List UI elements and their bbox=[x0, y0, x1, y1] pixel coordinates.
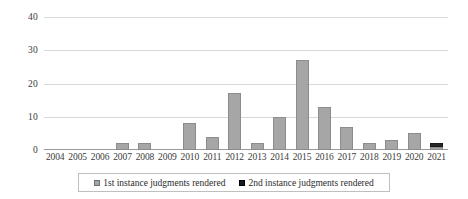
x-tick-label-2015: 2015 bbox=[291, 152, 313, 168]
y-tick-label-40: 40 bbox=[28, 12, 38, 22]
bar-group-2005 bbox=[66, 17, 88, 150]
bar-stack-2008[interactable] bbox=[138, 143, 151, 150]
bar-segment-first-instance-2021[interactable] bbox=[430, 147, 443, 150]
bar-stack-2012[interactable] bbox=[228, 93, 241, 150]
bar-group-2019 bbox=[381, 17, 403, 150]
bar-group-2015 bbox=[291, 17, 313, 150]
y-tick-label-0: 0 bbox=[33, 145, 38, 155]
x-tick-label-2021: 2021 bbox=[425, 152, 447, 168]
legend-swatch-icon-second-instance bbox=[239, 180, 245, 186]
chart-legend: 1st instance judgments rendered 2nd inst… bbox=[78, 173, 390, 192]
x-tick-label-2017: 2017 bbox=[336, 152, 358, 168]
bar-segment-first-instance-2012[interactable] bbox=[228, 93, 241, 150]
bar-group-2010 bbox=[179, 17, 201, 150]
bar-segment-first-instance-2008[interactable] bbox=[138, 143, 151, 150]
bar-segment-first-instance-2019[interactable] bbox=[385, 140, 398, 150]
bar-segment-first-instance-2007[interactable] bbox=[116, 143, 129, 150]
bar-stack-2016[interactable] bbox=[318, 107, 331, 150]
bar-stack-2013[interactable] bbox=[251, 143, 264, 150]
bar-group-2004 bbox=[44, 17, 66, 150]
bar-stack-2020[interactable] bbox=[408, 133, 421, 150]
y-tick-label-10: 10 bbox=[28, 112, 38, 122]
bar-stack-2010[interactable] bbox=[183, 123, 196, 150]
bar-stack-2007[interactable] bbox=[116, 143, 129, 150]
bar-stack-2018[interactable] bbox=[363, 143, 376, 150]
bar-stack-2021[interactable] bbox=[430, 143, 443, 150]
x-tick-label-2019: 2019 bbox=[381, 152, 403, 168]
bar-stack-2017[interactable] bbox=[340, 127, 353, 150]
y-tick-label-30: 30 bbox=[28, 45, 38, 55]
bar-group-2021 bbox=[425, 17, 447, 150]
bars-layer bbox=[44, 17, 448, 150]
x-tick-label-2009: 2009 bbox=[156, 152, 178, 168]
x-tick-label-2010: 2010 bbox=[179, 152, 201, 168]
bar-group-2007 bbox=[111, 17, 133, 150]
bar-segment-first-instance-2010[interactable] bbox=[183, 123, 196, 150]
bar-segment-first-instance-2014[interactable] bbox=[273, 117, 286, 150]
x-tick-label-2008: 2008 bbox=[134, 152, 156, 168]
bar-segment-first-instance-2018[interactable] bbox=[363, 143, 376, 150]
bar-stack-2019[interactable] bbox=[385, 140, 398, 150]
bar-chart: 010203040 200420052006200720082009201020… bbox=[0, 0, 468, 199]
bar-group-2013 bbox=[246, 17, 268, 150]
x-tick-label-2018: 2018 bbox=[358, 152, 380, 168]
bar-segment-first-instance-2013[interactable] bbox=[251, 143, 264, 150]
bar-group-2008 bbox=[134, 17, 156, 150]
legend-label-first-instance: 1st instance judgments rendered bbox=[103, 178, 225, 188]
legend-item-first-instance[interactable]: 1st instance judgments rendered bbox=[94, 178, 225, 188]
bar-segment-first-instance-2016[interactable] bbox=[318, 107, 331, 150]
bar-group-2011 bbox=[201, 17, 223, 150]
x-tick-label-2020: 2020 bbox=[403, 152, 425, 168]
bar-segment-first-instance-2020[interactable] bbox=[408, 133, 421, 150]
bar-group-2018 bbox=[358, 17, 380, 150]
x-tick-label-2005: 2005 bbox=[66, 152, 88, 168]
y-axis: 010203040 bbox=[0, 17, 38, 150]
bar-segment-first-instance-2017[interactable] bbox=[340, 127, 353, 150]
x-tick-label-2004: 2004 bbox=[44, 152, 66, 168]
bar-stack-2011[interactable] bbox=[206, 137, 219, 150]
x-tick-label-2014: 2014 bbox=[268, 152, 290, 168]
x-tick-label-2013: 2013 bbox=[246, 152, 268, 168]
legend-swatch-icon-first-instance bbox=[94, 180, 100, 186]
bar-group-2014 bbox=[268, 17, 290, 150]
bar-group-2017 bbox=[336, 17, 358, 150]
x-tick-label-2016: 2016 bbox=[313, 152, 335, 168]
x-tick-label-2012: 2012 bbox=[224, 152, 246, 168]
bar-segment-first-instance-2011[interactable] bbox=[206, 137, 219, 150]
x-tick-label-2011: 2011 bbox=[201, 152, 223, 168]
bar-group-2009 bbox=[156, 17, 178, 150]
bar-group-2012 bbox=[224, 17, 246, 150]
x-axis: 2004200520062007200820092010201120122013… bbox=[44, 152, 448, 168]
bar-stack-2015[interactable] bbox=[296, 60, 309, 150]
y-tick-label-20: 20 bbox=[28, 79, 38, 89]
bar-group-2016 bbox=[313, 17, 335, 150]
bar-group-2020 bbox=[403, 17, 425, 150]
bar-stack-2014[interactable] bbox=[273, 117, 286, 150]
x-tick-label-2006: 2006 bbox=[89, 152, 111, 168]
x-tick-label-2007: 2007 bbox=[111, 152, 133, 168]
legend-item-second-instance[interactable]: 2nd instance judgments rendered bbox=[239, 178, 373, 188]
bar-group-2006 bbox=[89, 17, 111, 150]
bar-segment-first-instance-2015[interactable] bbox=[296, 60, 309, 150]
legend-label-second-instance: 2nd instance judgments rendered bbox=[248, 178, 373, 188]
